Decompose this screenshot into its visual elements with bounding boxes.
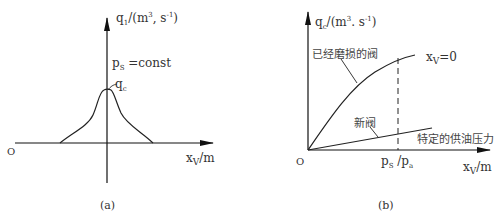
panel-a-graph [15, 18, 213, 183]
supply-pressure-label: 特定的供油压力 [417, 134, 494, 145]
x-axis-symbol: x [186, 151, 193, 165]
panel-b-y-axis-label: qc/(m3. s-1) [315, 16, 377, 31]
panel-a-peak-label: qc [115, 78, 127, 93]
curve-value: =0 [439, 50, 457, 64]
x-axis-symbol: x [463, 160, 470, 174]
panel-b-origin-label: O [296, 157, 304, 167]
panel-b-caption: (b) [378, 200, 394, 211]
worn-valve-label: 已经磨损的阀 [312, 49, 378, 60]
x-axis-unit: /m [199, 151, 214, 165]
x-axis-unit: /m [476, 160, 491, 174]
panel-b-x-axis-label: xV/m [463, 161, 492, 176]
panel-a-y-axis-label: q1/(m3, s-1) [116, 12, 178, 27]
panel-a-x-axis-label: xV/m [186, 152, 215, 167]
tick-mid: /p [393, 154, 409, 168]
y-axis-unit: /(m [327, 15, 347, 29]
condition-text: =const [124, 56, 171, 70]
y-axis-unit-close: ) [372, 15, 377, 29]
tick-symbol: p [381, 154, 389, 168]
y-axis-symbol: q [315, 15, 323, 29]
panel-b-x-tick-label: pS /pa [381, 155, 413, 170]
condition-symbol: p [112, 56, 120, 70]
new-valve-label: 新阀 [354, 118, 376, 129]
tick-subscript-2: a [409, 162, 413, 170]
peak-symbol: q [115, 77, 123, 91]
new-valve-line [308, 128, 432, 150]
y-axis-unit-mid: . s [351, 15, 365, 29]
curve-xv0-label: xV=0 [426, 51, 457, 66]
panel-b-graph [308, 12, 490, 150]
panel-a-condition-label: pS =const [112, 57, 171, 72]
panel-a-caption: (a) [100, 200, 115, 211]
peak-subscript: c [123, 85, 127, 93]
diagram-canvas [0, 0, 495, 219]
worn-valve-leader [341, 59, 357, 83]
curve-symbol: x [426, 50, 433, 64]
panel-a-origin-label: O [7, 147, 15, 157]
y-axis-unit-mid: , s [153, 11, 167, 25]
worn-valve-curve [308, 55, 415, 150]
y-axis-unit: /(m [128, 11, 148, 25]
y-axis-unit-close: ) [173, 11, 178, 25]
unit-exponent-2: -1 [365, 15, 372, 23]
y-axis-symbol: q [116, 11, 124, 25]
